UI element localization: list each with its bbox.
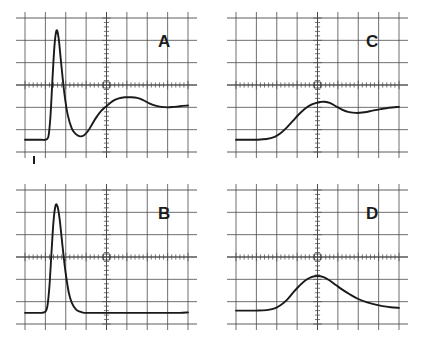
oscilloscope-figure: A B C D [0, 0, 422, 344]
scope-panel-a[interactable]: A [0, 0, 211, 172]
scope-screen-b [0, 172, 211, 344]
panel-label-d: D [366, 204, 379, 224]
panel-label-b: B [158, 204, 171, 224]
panel-label-c: C [366, 32, 379, 52]
scope-screen-d [211, 172, 422, 344]
scope-panel-d[interactable]: D [211, 172, 422, 344]
scope-panel-b[interactable]: B [0, 172, 211, 344]
scope-screen-c [211, 0, 422, 172]
panel-label-a: A [158, 32, 171, 52]
scope-screen-a [0, 0, 211, 172]
scope-panel-c[interactable]: C [211, 0, 422, 172]
